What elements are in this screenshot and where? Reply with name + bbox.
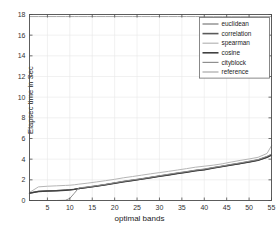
- x-tick-label: 10: [66, 204, 74, 211]
- y-tick-label: 2: [22, 176, 26, 183]
- y-tick-label: 6: [22, 135, 26, 142]
- x-tick-label: 20: [111, 204, 119, 211]
- legend-label-cityblock: cityblock: [222, 59, 247, 67]
- legend-label-cosine: cosine: [222, 49, 241, 56]
- y-tick-label: 4: [22, 156, 26, 163]
- y-tick-label: 10: [18, 94, 26, 101]
- y-tick-label: 12: [18, 73, 26, 80]
- x-tick-label: 40: [200, 204, 208, 211]
- x-tick-label: 35: [178, 204, 186, 211]
- y-tick-label: 0: [22, 197, 26, 204]
- x-tick-label: 25: [133, 204, 141, 211]
- y-tick-label: 14: [18, 52, 26, 59]
- plot-area: 510152025303540455055024681012141618 euc…: [0, 0, 279, 231]
- x-tick-label: 45: [223, 204, 231, 211]
- legend[interactable]: euclideancorrelationspearmancosinecitybl…: [200, 18, 270, 79]
- x-tick-label: 30: [156, 204, 164, 211]
- legend-label-euclidean: euclidean: [222, 20, 250, 27]
- x-tick-label: 50: [245, 204, 253, 211]
- y-tick-label: 8: [22, 114, 26, 121]
- figure: Elapsec time in Sec optimal bands 510152…: [0, 0, 279, 231]
- y-tick-label: 18: [18, 11, 26, 18]
- chart-svg: 510152025303540455055024681012141618 euc…: [0, 0, 279, 231]
- x-tick-label: 55: [268, 204, 276, 211]
- legend-label-spearman: spearman: [222, 39, 251, 47]
- y-tick-label: 16: [18, 32, 26, 39]
- legend-label-reference: reference: [222, 68, 249, 75]
- series-line-spearman: [30, 146, 272, 193]
- x-tick-label: 15: [88, 204, 96, 211]
- legend-label-correlation: correlation: [222, 30, 252, 37]
- x-tick-label: 5: [45, 204, 49, 211]
